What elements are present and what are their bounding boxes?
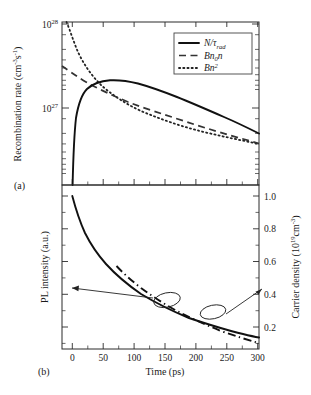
annotation-ellipse-right	[199, 303, 227, 322]
panel-b-ytick-label-1-0: 1.0	[264, 192, 276, 202]
panel-b-xtick-label-50: 50	[98, 353, 108, 363]
panel-b-xtick-label-200: 200	[189, 353, 204, 363]
panel-b-xtick-label-100: 100	[127, 353, 142, 363]
panel-b-x-axis-title: Time (ps)	[146, 366, 185, 378]
legend-label-bn0n: Bn0n	[204, 51, 223, 62]
panel-b-right-ticks	[253, 196, 259, 343]
panel-b: 1.0 0.8 0.6 0.4 0.2 0 50 100 150 200 250…	[38, 185, 302, 378]
panel-b-right-axis-title: Carrier density (1019cm-3)	[289, 215, 302, 318]
panel-b-ytick-label-0-8: 0.8	[264, 224, 276, 234]
panel-b-xtick-label-250: 250	[220, 353, 235, 363]
curve-pl-intensity	[72, 196, 259, 338]
panel-b-xtick-label-150: 150	[158, 353, 173, 363]
panel-a-ytick-label-1e27: 1027	[42, 102, 59, 114]
panel-b-xtick-label-0: 0	[70, 353, 75, 363]
annotation-arrow-left	[72, 286, 153, 298]
panel-b-left-axis-title: PL intensity (a.u.)	[39, 231, 51, 303]
curve-n-over-tau-rad	[73, 80, 259, 185]
annotation-arrow-right	[226, 289, 262, 314]
panel-a-ytick-exp-28: 28	[51, 18, 58, 25]
figure-container: 1028 1027 Recombination rate (cm-3s-1) N…	[0, 0, 311, 395]
panel-b-xtick-label-300: 300	[251, 353, 266, 363]
panel-b-frame	[62, 185, 259, 349]
panel-a-y-axis-title: Recombination rate (cm-3s-1)	[11, 47, 24, 162]
panel-b-x-ticks	[72, 343, 257, 349]
panel-a-ytick-exp-27: 27	[51, 102, 58, 109]
figure-svg: 1028 1027 Recombination rate (cm-3s-1) N…	[0, 0, 311, 395]
panel-b-left-ticks	[62, 196, 68, 343]
panel-a-legend: N/τrad Bn0n Bn2	[174, 33, 252, 74]
panel-a: 1028 1027 Recombination rate (cm-3s-1) N…	[11, 18, 259, 193]
panel-b-ytick-label-0-2: 0.2	[264, 323, 276, 333]
panel-a-ytick-label-1e28: 1028	[42, 18, 59, 30]
panel-b-ytick-label-0-6: 0.6	[264, 257, 276, 267]
panel-b-ytick-label-0-4: 0.4	[264, 290, 276, 300]
panel-a-label: (a)	[14, 180, 25, 192]
curve-carrier-density	[117, 266, 260, 343]
curve-bn0n	[62, 66, 259, 144]
panel-b-label: (b)	[38, 366, 50, 378]
